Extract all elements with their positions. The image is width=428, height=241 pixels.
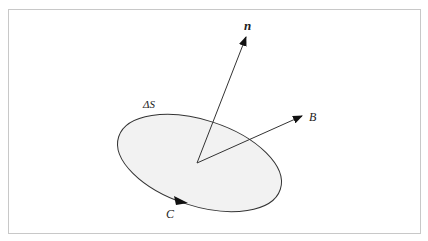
surface-ellipse [105, 96, 293, 230]
surface-label: ΔS [142, 98, 155, 110]
contour-label: C [166, 207, 175, 221]
flux-diagram: n B ΔS C [0, 0, 428, 241]
normal-label: n [244, 18, 251, 33]
field-label: B [309, 110, 317, 124]
